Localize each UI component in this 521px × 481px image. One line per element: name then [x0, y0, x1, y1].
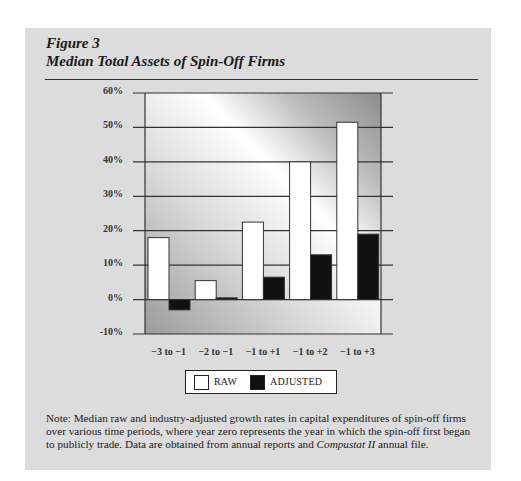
y-tick-label: 50%	[83, 119, 123, 130]
chart-legend: RAW ADJUSTED	[185, 370, 337, 394]
legend-adjusted-swatch	[250, 375, 265, 390]
note-text-end: annual file.	[375, 438, 428, 450]
x-tick-label: −1 to +3	[327, 346, 387, 357]
y-tick-label: -10%	[83, 326, 123, 337]
y-tick-label: 20%	[83, 223, 123, 234]
bar-adjusted	[216, 298, 237, 300]
y-tick-label: 60%	[83, 85, 123, 96]
legend-adjusted-label: ADJUSTED	[270, 376, 322, 387]
bar-raw	[148, 238, 169, 300]
y-tick-label: 0%	[83, 292, 123, 303]
note-source-name: Compustat II	[317, 438, 376, 450]
bar-adjusted	[169, 300, 190, 310]
bar-raw	[337, 122, 358, 299]
figure-note: Note: Median raw and industry-adjusted g…	[46, 412, 476, 451]
y-tick-label: 10%	[83, 257, 123, 268]
bar-adjusted	[311, 255, 332, 300]
bar-adjusted	[263, 277, 284, 299]
bar-adjusted	[358, 234, 379, 299]
y-tick-label: 40%	[83, 154, 123, 165]
bar-chart: 60%50%40%30%20%10%0%-10% −3 to −1−2 to −…	[25, 28, 491, 470]
bar-raw	[290, 162, 311, 300]
legend-raw-swatch	[194, 375, 209, 390]
bar-raw	[195, 281, 216, 300]
figure-panel: Figure 3 Median Total Assets of Spin-Off…	[25, 28, 491, 470]
bar-raw	[242, 222, 263, 299]
y-tick-label: 30%	[83, 188, 123, 199]
legend-raw-label: RAW	[214, 376, 237, 387]
